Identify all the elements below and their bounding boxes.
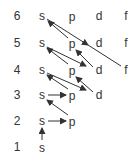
orbital-6d: d bbox=[96, 10, 103, 22]
orbital-1s: s bbox=[39, 142, 45, 154]
shell-number-6: 6 bbox=[14, 10, 21, 22]
orbital-4d: d bbox=[96, 64, 103, 76]
orbital-3s: s bbox=[39, 89, 45, 101]
orbital-4p: p bbox=[69, 65, 76, 77]
shell-number-2: 2 bbox=[14, 115, 21, 127]
orbital-5s: s bbox=[39, 37, 45, 49]
arrow-6s-5d bbox=[47, 19, 88, 45]
shell-number-3: 3 bbox=[14, 89, 21, 101]
shell-number-1: 1 bbox=[14, 141, 21, 153]
orbital-6s: s bbox=[39, 10, 45, 22]
orbital-4s: s bbox=[39, 64, 45, 76]
orbital-4f: f bbox=[124, 64, 127, 76]
arrow-6s-4f-tail bbox=[88, 45, 121, 66]
orbital-2p: p bbox=[69, 116, 76, 128]
orbital-3d: d bbox=[96, 89, 103, 101]
shell-number-4: 4 bbox=[14, 64, 21, 76]
arrow-4d-5p bbox=[76, 50, 93, 67]
orbital-6f: f bbox=[124, 10, 127, 22]
orbital-5f: f bbox=[124, 37, 127, 49]
orbital-2s: s bbox=[39, 115, 45, 127]
arrow-2p-3s bbox=[47, 100, 68, 115]
orbital-3p: p bbox=[69, 90, 76, 102]
arrow-5p-6s bbox=[48, 21, 68, 38]
orbital-5d: d bbox=[96, 37, 103, 49]
orbital-5p: p bbox=[69, 38, 76, 50]
orbital-6p: p bbox=[69, 11, 76, 23]
shell-number-5: 5 bbox=[14, 37, 21, 49]
